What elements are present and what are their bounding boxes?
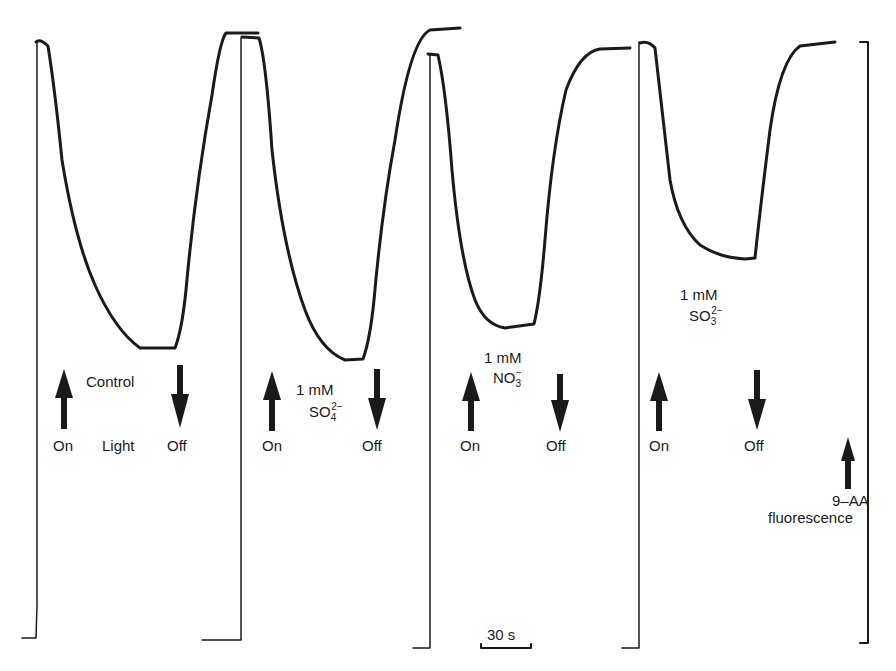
ion-superscript: 2− bbox=[711, 305, 722, 316]
condition-label-sulfite-ion: SO32− bbox=[689, 307, 723, 324]
light-off-label-4: Off bbox=[744, 438, 764, 454]
ion-subscript: 4 bbox=[331, 412, 337, 423]
fluorescence-scale-bracket bbox=[860, 42, 868, 643]
condition-label-nitrate-ion: NO3− bbox=[493, 369, 522, 386]
fluorescence-figure: Control On Light Off 1 mM SO42− On Off 1… bbox=[0, 0, 896, 671]
light-off-label-2: Off bbox=[362, 438, 382, 454]
fluorescence-direction-arrow bbox=[841, 437, 855, 489]
ion-superscript: 2− bbox=[331, 401, 342, 412]
time-scale-label: 30 s bbox=[487, 627, 515, 643]
fluorescence-label-line1: 9–AA bbox=[832, 493, 869, 509]
light-on-label-4: On bbox=[649, 438, 669, 454]
ion-subscript: 3 bbox=[711, 316, 717, 327]
traces-svg bbox=[0, 0, 896, 671]
ion-base: SO bbox=[309, 403, 331, 420]
condition-label-sulfate-ion: SO42− bbox=[309, 403, 343, 420]
light-on-label-1: On bbox=[53, 438, 73, 454]
trace-control bbox=[22, 33, 258, 638]
ion-subscript: 3 bbox=[516, 378, 522, 389]
condition-label-sulfate-conc: 1 mM bbox=[296, 382, 334, 398]
condition-label-nitrate-conc: 1 mM bbox=[484, 350, 522, 366]
light-on-arrow-1 bbox=[55, 369, 73, 429]
trace-nitrate bbox=[413, 48, 630, 648]
light-off-label-1: Off bbox=[167, 438, 187, 454]
condition-label-sulfite-conc: 1 mM bbox=[680, 287, 718, 303]
trace-sulfate bbox=[202, 28, 460, 640]
light-on-label-3: On bbox=[460, 438, 480, 454]
condition-label-control: Control bbox=[86, 374, 134, 390]
light-off-arrow-4 bbox=[748, 370, 766, 430]
time-scale-bar bbox=[481, 644, 531, 648]
light-on-arrow-2 bbox=[263, 371, 281, 431]
light-on-label-2: On bbox=[262, 438, 282, 454]
light-on-arrow-3 bbox=[462, 372, 480, 431]
trace-sulfite bbox=[622, 42, 835, 648]
fluorescence-label-line2: fluorescence bbox=[768, 510, 853, 526]
ion-base: SO bbox=[689, 307, 711, 324]
ion-superscript: − bbox=[516, 367, 522, 378]
arrows bbox=[55, 365, 855, 489]
light-off-arrow-2 bbox=[368, 369, 386, 430]
light-label: Light bbox=[102, 438, 135, 454]
light-off-label-3: Off bbox=[546, 438, 566, 454]
light-off-arrow-3 bbox=[551, 374, 569, 432]
light-off-arrow-1 bbox=[171, 365, 189, 428]
ion-base: NO bbox=[493, 369, 516, 386]
light-on-arrow-4 bbox=[650, 372, 668, 431]
